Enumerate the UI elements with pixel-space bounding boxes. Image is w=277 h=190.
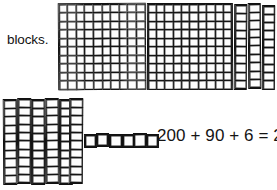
rod-cell — [46, 174, 59, 183]
unit-cell — [85, 135, 96, 147]
rod-cell — [4, 175, 17, 184]
unit-cell — [134, 134, 146, 147]
hundreds-flat — [58, 3, 147, 91]
tens-rod — [31, 99, 45, 185]
tens-rod — [45, 98, 60, 184]
tens-rod — [3, 99, 18, 185]
tens-rod — [17, 98, 31, 184]
tens-rod — [262, 5, 275, 90]
tens-rod — [69, 98, 83, 184]
flat-cell — [223, 80, 232, 90]
unit-cell — [97, 134, 108, 146]
ones-unit-cube — [96, 133, 109, 147]
rod-cell — [262, 80, 274, 89]
rod-cell — [234, 80, 246, 89]
blocks-label: blocks. — [7, 32, 48, 47]
rod-cell — [17, 174, 30, 183]
unit-cell — [110, 135, 122, 147]
ones-unit-cube — [109, 134, 123, 148]
place-value-equation: 200 + 90 + 6 = 296 — [157, 126, 277, 146]
rod-cell — [69, 174, 82, 183]
tens-rod — [248, 3, 262, 89]
tens-rod — [234, 4, 247, 90]
rod-cell — [32, 175, 45, 184]
flat-cell — [136, 80, 146, 90]
rod-cell — [249, 79, 261, 88]
worksheet-canvas: blocks. — [0, 0, 277, 190]
hundreds-flat — [147, 3, 233, 90]
ones-unit-cube — [133, 133, 147, 148]
